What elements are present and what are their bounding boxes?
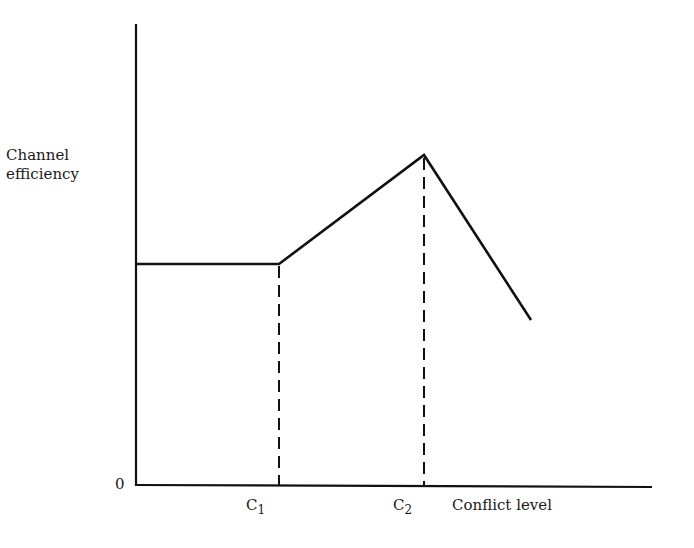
y-axis-label-line2: efficiency: [6, 165, 79, 184]
chart-canvas: [0, 0, 694, 548]
c1-letter: C: [246, 496, 257, 514]
c2-letter: C: [393, 496, 404, 514]
x-axis-label: Conflict level: [452, 496, 552, 515]
origin-label: 0: [115, 475, 125, 494]
c1-subscript: 1: [257, 503, 265, 517]
x-axis: [135, 485, 652, 487]
c2-subscript: 2: [404, 503, 412, 517]
efficiency-curve: [137, 155, 531, 320]
c1-tick-label: C1: [246, 496, 265, 520]
c2-tick-label: C2: [393, 496, 412, 520]
y-axis-label-line1: Channel: [6, 146, 79, 165]
y-axis-label: Channel efficiency: [6, 146, 79, 184]
